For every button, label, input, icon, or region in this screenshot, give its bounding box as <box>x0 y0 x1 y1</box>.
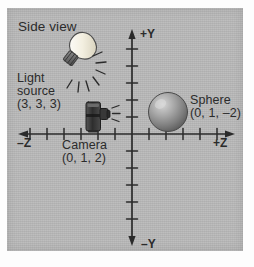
camera-icon <box>86 102 110 133</box>
camera-coordinates: (0, 1, 2) <box>62 152 106 166</box>
diagram-vector-art <box>0 0 254 267</box>
axis-label-plus-y: +Y <box>140 28 155 42</box>
axis-label-minus-z: –Z <box>17 137 31 151</box>
sphere-icon <box>149 93 188 132</box>
light-source-coordinates: (3, 3, 3) <box>17 98 61 112</box>
camera-rays-icon <box>112 106 120 122</box>
axis-label-minus-y: –Y <box>141 238 156 252</box>
page-title: Side view <box>18 20 77 34</box>
lightbulb-icon <box>58 27 102 72</box>
sphere-coordinates: (0, 1, –2) <box>190 107 241 121</box>
side-view-diagram: Side view +Y –Y –Z +Z Light source (3, 3… <box>0 0 254 267</box>
y-axis-negative-arrowhead <box>128 236 135 246</box>
y-axis-positive-arrowhead <box>128 29 135 39</box>
axis-label-plus-z: +Z <box>213 137 227 151</box>
